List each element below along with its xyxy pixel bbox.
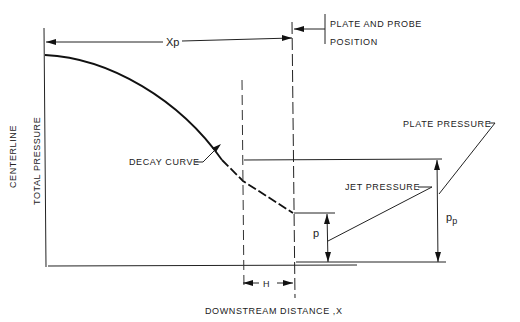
x-axis-label: DOWNSTREAM DISTANCE ,X [205, 306, 343, 316]
arrow-up-icon [434, 160, 440, 170]
arrow-right-icon [283, 280, 293, 286]
decay-curve-extrapolated [222, 160, 293, 213]
decay-curve [45, 55, 222, 160]
arrow-icon [212, 144, 221, 152]
arrow-left-icon [294, 26, 304, 32]
arrow-down-icon [435, 252, 441, 262]
plate-pressure-level [244, 159, 442, 160]
h-label: H [263, 279, 270, 289]
plate-probe-label-line2: POSITION [330, 37, 378, 47]
decay-curve-label: DECAY CURVE [129, 157, 200, 167]
h-dashed-line [242, 80, 244, 290]
jet-leader-b [328, 187, 432, 241]
x-axis [48, 265, 357, 266]
y-axis-label-line2: TOTAL PRESSURE [32, 117, 42, 205]
jet-pressure-diagram: Xp PLATE AND PROBE POSITION DECAY CURVE … [0, 0, 520, 322]
jet-pressure-label: JET PRESSURE [345, 182, 420, 192]
xp-dimension-right [182, 38, 292, 41]
plate-leader-b [439, 123, 495, 194]
xp-label: Xp [166, 36, 179, 48]
pp-dimension [437, 160, 438, 262]
arrow-down-icon [325, 252, 331, 262]
p-label: p [313, 227, 319, 239]
plate-pressure-label: PLATE PRESSURE [403, 119, 491, 129]
y-axis-label-line1: CENTERLINE [8, 125, 18, 188]
arrow-left-icon [243, 280, 253, 286]
plate-probe-label-line1: PLATE AND PROBE [330, 19, 422, 29]
arrow-right-icon [282, 35, 292, 41]
y-axis [44, 28, 46, 267]
pp-label: pp [446, 211, 457, 226]
arrow-left-icon [46, 39, 56, 45]
arrow-up-icon [324, 214, 330, 224]
